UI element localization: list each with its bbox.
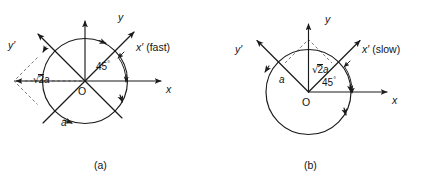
caption-a: (a)	[94, 160, 107, 171]
radius-label-a: a	[61, 118, 67, 128]
x-axis-label-b: x	[392, 95, 397, 106]
x-prime-axis-note-b: (slow)	[372, 43, 400, 55]
origin-label-b: O	[302, 97, 310, 108]
radius-label-b: a	[279, 75, 285, 85]
angle-label-a: 45°	[96, 60, 110, 72]
x-prime-axis-label-b: x′ (slow)	[362, 44, 400, 55]
y-prime-axis-negative-a	[85, 81, 122, 118]
figure-root: y x y′ x′ (fast) O √2a a 45° (a)	[0, 0, 434, 187]
angle-value-b: 45	[322, 77, 333, 88]
diagonal-length-label-b: √2a	[312, 64, 329, 75]
diagram-panel-b: y x y′ x′ (slow) O √2a a 45° (b)	[217, 0, 434, 187]
y-prime-axis-label-text-a: y′	[8, 39, 15, 51]
x-prime-axis-label-a: x′ (fast)	[136, 42, 170, 53]
origin-label-a: O	[78, 86, 86, 97]
y-axis-label-a: y	[118, 12, 123, 23]
y-prime-axis-label-text-b: y′	[235, 43, 242, 55]
radical-suffix-a: a	[44, 74, 50, 85]
panel-b-drawing	[217, 0, 434, 187]
y-axis-label-b: y	[325, 14, 330, 25]
y-prime-axis-label-b: y′	[235, 44, 242, 55]
diagonal-length-label-a: √2a	[33, 74, 50, 85]
y-prime-axis-label-a: y′	[8, 40, 15, 51]
angle-value-a: 45	[96, 61, 107, 72]
radical-suffix-b: a	[323, 64, 329, 75]
caption-b: (b)	[304, 160, 317, 171]
angle-degree-sign-b: °	[333, 76, 336, 83]
x-axis-label-a: x	[166, 84, 171, 95]
x-prime-axis-note-a: (fast)	[146, 41, 170, 53]
diagram-panel-a: y x y′ x′ (fast) O √2a a 45° (a)	[0, 0, 217, 187]
angle-degree-sign-a: °	[107, 60, 110, 67]
panel-a-drawing	[0, 0, 217, 187]
angle-label-b: 45°	[322, 76, 336, 88]
